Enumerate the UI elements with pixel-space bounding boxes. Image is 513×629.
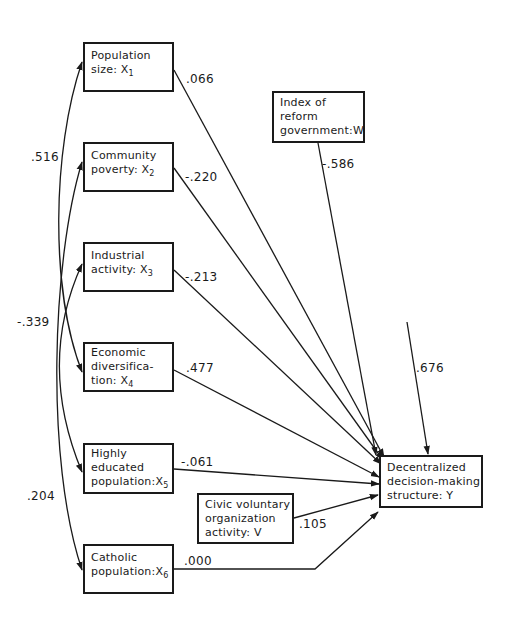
corr-x2-x6 — [57, 162, 82, 570]
node-index-of-reform-government: Index of reform government:W — [272, 91, 365, 143]
corr-x2-x6-value: .204 — [27, 489, 55, 503]
coef-residual-y: .676 — [416, 361, 444, 375]
node-decentralized-decision-making-structure: Decentralized decision-making structure:… — [379, 455, 483, 508]
coef-x3-y: -.213 — [185, 270, 218, 284]
node-civic-voluntary-organization-activity: Civic voluntary organization activity: V — [197, 493, 294, 544]
node-highly-educated-population: Highly educated population:X5 — [83, 443, 174, 494]
coef-v-y: .105 — [299, 517, 327, 531]
coef-x4-y: .477 — [186, 361, 214, 375]
coef-w-y: -.586 — [322, 157, 355, 171]
corr-x1-x4-value: .516 — [31, 150, 59, 164]
corr-x3-x5-value: -.339 — [17, 315, 50, 329]
node-community-poverty: Community poverty: X2 — [83, 142, 174, 192]
path-w-y — [318, 143, 376, 455]
path-v-y — [294, 495, 378, 518]
coef-x5-y: -.061 — [181, 455, 214, 469]
node-population-size: Population size: X1 — [83, 42, 174, 92]
path-residual-y — [407, 322, 428, 454]
coef-x2-y: -.220 — [185, 170, 218, 184]
path-x2-y — [174, 168, 383, 460]
coef-x1-y: .066 — [186, 72, 214, 86]
node-industrial-activity: Industrial activity: X3 — [83, 242, 174, 292]
coef-x6-y: .000 — [184, 554, 212, 568]
path-x5-y — [174, 469, 379, 484]
node-economic-diversification: Economic diversifica- tion: X4 — [83, 342, 174, 392]
node-catholic-population: Catholic population:X6 — [83, 544, 174, 594]
